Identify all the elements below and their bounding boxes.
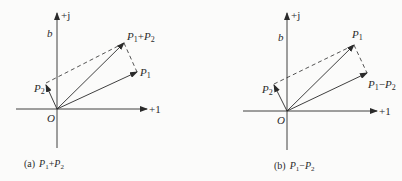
vector-p2 [46,85,57,109]
label-p1: P1 [139,66,151,80]
dashed-sum-to-p1 [124,43,137,72]
y-axis-label: +j [291,9,300,21]
phasor-diagrams: +1 +j b O P1 P2 P1+P2 (a)P1+P2 +1 +j b [0,0,402,181]
vector-p1-plus-p2 [57,43,124,109]
dashed-p2-to-p1 [274,45,354,84]
y-axis-label: +j [61,9,70,21]
caption-a: (a)P1+P2 [24,158,64,171]
label-p1: P1 [351,28,363,42]
dashed-p2-to-sum [46,43,124,83]
label-p2: P2 [261,83,273,97]
origin-label: O [277,114,285,126]
vector-p1-minus-p2 [287,73,367,111]
caption-b: (b)P1−P2 [274,160,315,173]
vector-p2 [274,85,287,111]
x-axis-label: +1 [379,105,391,117]
b-label: b [47,27,53,39]
x-axis-label: +1 [149,103,161,115]
b-label: b [278,31,284,43]
label-p1-plus-p2: P1+P2 [126,30,155,44]
label-p1-minus-p2: P1−P2 [367,78,396,92]
origin-label: O [47,112,55,124]
diagram-b: +1 +j b O P1 P2 P1−P2 (b)P1−P2 [243,9,396,173]
vector-p1 [57,72,137,109]
diagram-a: +1 +j b O P1 P2 P1+P2 (a)P1+P2 [16,9,161,171]
label-p2: P2 [33,82,45,96]
vector-p1 [287,45,354,111]
dashed-p1-to-diff [354,45,367,73]
